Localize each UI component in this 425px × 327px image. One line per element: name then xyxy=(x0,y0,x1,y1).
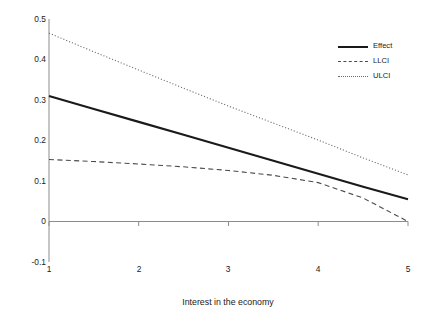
series-line-llci xyxy=(49,160,408,222)
x-tick-label: 5 xyxy=(398,265,418,274)
series-line-effect xyxy=(49,96,408,199)
legend-label: Effect xyxy=(373,41,392,50)
legend-item-ulci: ULCI xyxy=(338,68,422,83)
legend-line-dashed-icon xyxy=(338,56,368,66)
legend-label: ULCI xyxy=(373,71,390,80)
y-tick-label: 0 xyxy=(20,217,46,226)
x-axis-title: Interest in the economy xyxy=(48,297,408,307)
x-tick-label: 1 xyxy=(39,265,59,274)
y-tick-label: 0.5 xyxy=(20,15,46,24)
legend-line-dotted-icon xyxy=(338,71,368,81)
x-axis-ticks xyxy=(49,222,408,227)
conditional-effects-chart: Conditional effect of exposre to negativ… xyxy=(0,0,425,327)
x-tick-label: 3 xyxy=(218,265,238,274)
legend-line-solid-icon xyxy=(338,41,368,51)
y-tick-label: 0.2 xyxy=(20,136,46,145)
y-tick-label: 0.1 xyxy=(20,177,46,186)
y-tick-label: 0.3 xyxy=(20,96,46,105)
legend-label: LLCI xyxy=(373,56,389,65)
x-tick-label: 2 xyxy=(129,265,149,274)
x-axis-tick-labels: 1 2 3 4 5 xyxy=(0,265,425,277)
y-tick-label: 0.4 xyxy=(20,55,46,64)
legend-item-effect: Effect xyxy=(338,38,422,53)
chart-legend: Effect LLCI ULCI xyxy=(338,38,422,83)
y-axis-tick-labels: 0.5 0.4 0.3 0.2 0.1 0 -0.1 xyxy=(18,0,46,327)
x-tick-label: 4 xyxy=(308,265,328,274)
legend-item-llci: LLCI xyxy=(338,53,422,68)
